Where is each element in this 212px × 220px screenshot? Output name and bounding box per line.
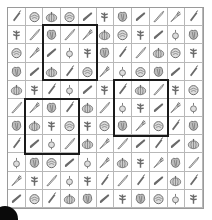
- grid-cell[interactable]: [168, 135, 186, 153]
- grid-cell[interactable]: [168, 153, 186, 171]
- grid-cell[interactable]: [168, 63, 186, 81]
- grid-cell[interactable]: [79, 81, 97, 99]
- grid-cell[interactable]: [132, 135, 150, 153]
- grid-cell[interactable]: [26, 99, 44, 117]
- grid-cell[interactable]: [132, 172, 150, 190]
- grid-cell[interactable]: [150, 26, 168, 44]
- grid-cell[interactable]: [79, 172, 97, 190]
- grid-cell[interactable]: [168, 26, 186, 44]
- grid-cell[interactable]: [168, 172, 186, 190]
- grid-cell[interactable]: [132, 44, 150, 62]
- grid-cell[interactable]: [97, 26, 115, 44]
- grid-cell[interactable]: [8, 8, 26, 26]
- grid-cell[interactable]: [185, 8, 203, 26]
- grid-cell[interactable]: [114, 81, 132, 99]
- grid-cell[interactable]: [97, 63, 115, 81]
- grid-cell[interactable]: [132, 26, 150, 44]
- grid-cell[interactable]: [26, 190, 44, 208]
- grid-cell[interactable]: [61, 81, 79, 99]
- grid-cell[interactable]: [114, 8, 132, 26]
- grid-cell[interactable]: [79, 190, 97, 208]
- grid-cell[interactable]: [114, 99, 132, 117]
- grid-cell[interactable]: [79, 26, 97, 44]
- grid-cell[interactable]: [26, 63, 44, 81]
- grid-cell[interactable]: [114, 117, 132, 135]
- grid-cell[interactable]: [43, 26, 61, 44]
- grid-cell[interactable]: [79, 135, 97, 153]
- grid-cell[interactable]: [43, 44, 61, 62]
- grid-cell[interactable]: [168, 190, 186, 208]
- grid-cell[interactable]: [150, 172, 168, 190]
- grid-cell[interactable]: [132, 190, 150, 208]
- grid-cell[interactable]: [26, 8, 44, 26]
- grid-cell[interactable]: [43, 135, 61, 153]
- grid-cell[interactable]: [185, 135, 203, 153]
- grid-cell[interactable]: [26, 44, 44, 62]
- grid-cell[interactable]: [8, 99, 26, 117]
- grid-cell[interactable]: [114, 172, 132, 190]
- grid-cell[interactable]: [114, 153, 132, 171]
- grid-cell[interactable]: [150, 63, 168, 81]
- grid-cell[interactable]: [8, 81, 26, 99]
- grid-cell[interactable]: [61, 190, 79, 208]
- grid-cell[interactable]: [43, 172, 61, 190]
- grid-cell[interactable]: [26, 117, 44, 135]
- grid-cell[interactable]: [168, 99, 186, 117]
- grid-cell[interactable]: [61, 153, 79, 171]
- grid-cell[interactable]: [132, 81, 150, 99]
- grid-cell[interactable]: [185, 153, 203, 171]
- grid-cell[interactable]: [43, 190, 61, 208]
- grid-cell[interactable]: [8, 63, 26, 81]
- grid-cell[interactable]: [150, 8, 168, 26]
- grid-cell[interactable]: [168, 81, 186, 99]
- grid-cell[interactable]: [61, 117, 79, 135]
- grid-cell[interactable]: [26, 153, 44, 171]
- grid-cell[interactable]: [43, 8, 61, 26]
- grid-cell[interactable]: [132, 8, 150, 26]
- grid-cell[interactable]: [168, 8, 186, 26]
- grid-cell[interactable]: [61, 8, 79, 26]
- grid-cell[interactable]: [168, 117, 186, 135]
- grid-cell[interactable]: [97, 135, 115, 153]
- grid-cell[interactable]: [26, 81, 44, 99]
- grid-cell[interactable]: [150, 135, 168, 153]
- grid-cell[interactable]: [26, 172, 44, 190]
- grid-cell[interactable]: [150, 44, 168, 62]
- grid-cell[interactable]: [150, 99, 168, 117]
- grid-cell[interactable]: [97, 8, 115, 26]
- grid-cell[interactable]: [8, 153, 26, 171]
- grid-cell[interactable]: [8, 44, 26, 62]
- grid-cell[interactable]: [26, 135, 44, 153]
- grid-cell[interactable]: [43, 63, 61, 81]
- grid-cell[interactable]: [61, 172, 79, 190]
- grid-cell[interactable]: [79, 117, 97, 135]
- grid-cell[interactable]: [43, 153, 61, 171]
- grid-cell[interactable]: [61, 135, 79, 153]
- grid-cell[interactable]: [114, 135, 132, 153]
- grid-cell[interactable]: [61, 63, 79, 81]
- grid-cell[interactable]: [185, 81, 203, 99]
- grid-cell[interactable]: [97, 99, 115, 117]
- grid-cell[interactable]: [132, 99, 150, 117]
- grid-cell[interactable]: [185, 99, 203, 117]
- grid-cell[interactable]: [132, 153, 150, 171]
- grid-cell[interactable]: [8, 190, 26, 208]
- grid-cell[interactable]: [150, 81, 168, 99]
- grid-cell[interactable]: [185, 172, 203, 190]
- grid-cell[interactable]: [43, 81, 61, 99]
- grid-cell[interactable]: [61, 26, 79, 44]
- grid-cell[interactable]: [26, 26, 44, 44]
- grid-cell[interactable]: [114, 63, 132, 81]
- grid-cell[interactable]: [8, 117, 26, 135]
- grid-cell[interactable]: [150, 190, 168, 208]
- grid-cell[interactable]: [43, 99, 61, 117]
- grid-cell[interactable]: [185, 117, 203, 135]
- grid-cell[interactable]: [114, 190, 132, 208]
- grid-cell[interactable]: [43, 117, 61, 135]
- grid-cell[interactable]: [8, 26, 26, 44]
- grid-cell[interactable]: [8, 172, 26, 190]
- grid-cell[interactable]: [79, 8, 97, 26]
- grid-cell[interactable]: [79, 63, 97, 81]
- grid-cell[interactable]: [97, 81, 115, 99]
- grid-cell[interactable]: [79, 153, 97, 171]
